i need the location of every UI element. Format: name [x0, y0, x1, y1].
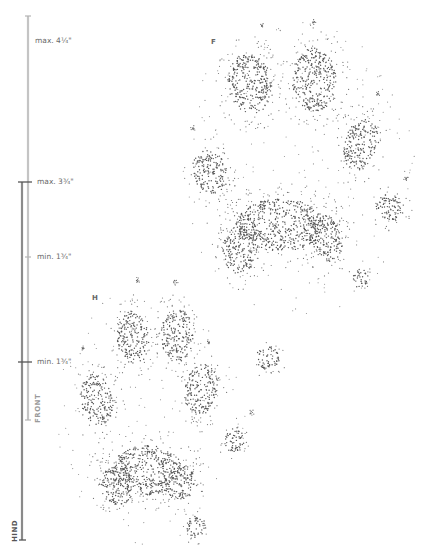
hind-bar-label: HIND: [11, 520, 19, 542]
scale-label-max-hind: max. 3¾": [37, 177, 74, 186]
hind-paw-letter: H: [92, 294, 98, 302]
front-bar-label: FRONT: [34, 394, 42, 423]
front-paw-print: [183, 22, 415, 376]
scale-label-min-hind: min. 1¾": [37, 357, 71, 366]
claw-marks: [82, 19, 409, 416]
hind-paw-print: [58, 294, 249, 544]
stipple-illustration: [0, 0, 426, 547]
scale-label-max-front: max. 4¼": [35, 36, 72, 45]
paw-print-diagram: max. 4¼" max. 3¾" min. 1¾" min. 1¾" FRON…: [0, 0, 426, 547]
front-paw-letter: F: [211, 38, 216, 46]
scale-label-min-front: min. 1¾": [37, 252, 71, 261]
measurement-scale: [18, 16, 32, 540]
